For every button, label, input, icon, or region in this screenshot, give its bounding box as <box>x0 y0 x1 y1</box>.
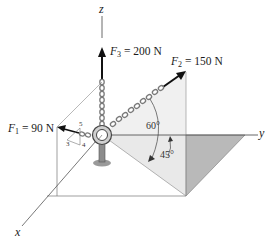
x-axis-label: x <box>15 226 20 238</box>
slope-run-label: 4 <box>82 142 86 149</box>
z-axis-label: z <box>99 3 104 15</box>
slope-hyp-label: 5 <box>79 121 83 128</box>
f3-arrow-head <box>98 47 106 57</box>
slope-rise-label: 3 <box>66 141 70 148</box>
angle-60-label: 60° <box>146 121 160 131</box>
y-axis-label: y <box>259 127 264 139</box>
angle-45-label: 45° <box>160 150 174 160</box>
f2-label: F2 = 150 N <box>171 56 223 69</box>
f3-label: F3 = 200 N <box>110 46 162 59</box>
shaded-triangle <box>186 135 245 196</box>
x-axis <box>22 141 96 226</box>
f1-label: F1 = 90 N <box>8 123 54 136</box>
f3-chain <box>100 79 104 126</box>
f1-chain <box>79 132 91 138</box>
